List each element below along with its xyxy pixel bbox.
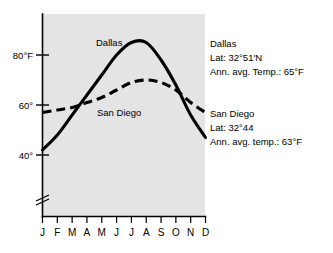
san-diego-info-name: San Diego	[210, 108, 254, 119]
x-axis-month-label-f-1: F	[54, 227, 60, 238]
climate-line-chart-figure: 40°60°80°F JFMAMJJASOND Dallas San Diego…	[0, 0, 333, 253]
x-axis-month-label-a-3: A	[84, 227, 91, 238]
y-axis-tick-label: 40°	[19, 150, 34, 161]
x-axis-ticks-group: JFMAMJJASOND	[40, 217, 209, 239]
dallas-info-latitude: Lat: 32°51'N	[210, 52, 262, 63]
x-axis-month-label-j-6: J	[129, 227, 134, 238]
x-axis-month-label-j-0: J	[40, 227, 45, 238]
y-axis-tick-label: 80°F	[13, 50, 33, 61]
y-axis-tick-label: 60°	[19, 100, 34, 111]
san-diego-curve-label: San Diego	[97, 107, 141, 118]
x-axis-month-label-a-7: A	[143, 227, 150, 238]
x-axis-month-label-d-11: D	[202, 227, 209, 238]
chart-canvas: 40°60°80°F JFMAMJJASOND Dallas San Diego…	[0, 0, 333, 253]
dallas-info-name: Dallas	[210, 38, 237, 49]
dallas-info-avg-temp: Ann. avg. Temp.: 65°F	[210, 66, 304, 77]
san-diego-info-latitude: Lat: 32°44	[210, 122, 253, 133]
x-axis-month-label-s-8: S	[158, 227, 165, 238]
x-axis-month-label-m-2: M	[68, 227, 76, 238]
x-axis-month-label-m-4: M	[98, 227, 106, 238]
x-axis-month-label-o-9: O	[172, 227, 180, 238]
x-axis-month-label-j-5: J	[114, 227, 119, 238]
dallas-info-annotation: Dallas Lat: 32°51'N Ann. avg. Temp.: 65°…	[210, 38, 304, 77]
dallas-curve-label: Dallas	[96, 37, 123, 48]
x-axis-month-label-n-10: N	[187, 227, 194, 238]
san-diego-info-annotation: San Diego Lat: 32°44 Ann. avg. temp.: 63…	[210, 108, 302, 147]
san-diego-info-avg-temp: Ann. avg. temp.: 63°F	[210, 136, 302, 147]
